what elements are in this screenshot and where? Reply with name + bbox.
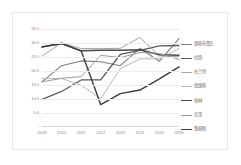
legend-color-swatch [181,115,192,116]
legend-item[interactable]: 杜兰特 [181,69,229,75]
x-axis-tick-label: 2014 [132,131,148,135]
chart-legend: 维斯布鲁克哈登杜兰特德维斯格林库里詹姆斯 [181,41,229,139]
legend-label: 德维斯 [194,84,206,88]
legend-label: 维斯布鲁克 [194,42,213,46]
y-axis-tick-label: 10.0 [17,97,39,101]
x-axis-tick-label: 2009 [34,131,50,135]
legend-label: 杜兰特 [194,70,206,74]
y-axis-tick-label: 30.0 [17,41,39,45]
series-line [42,39,179,82]
x-axis-line [42,126,179,127]
x-axis-labels: 20092010201120122013201420152016 [42,131,179,141]
legend-item[interactable]: 维斯布鲁克 [181,41,229,47]
legend-color-swatch [181,129,192,130]
grid-line [42,99,179,100]
grid-line [42,43,179,44]
legend-item[interactable]: 库里 [181,112,229,118]
legend-item[interactable]: 哈登 [181,55,229,61]
grid-line [42,113,179,114]
y-axis-tick-label: 15.0 [17,83,39,87]
legend-label: 詹姆斯 [194,127,206,131]
legend-label: 哈登 [194,56,202,60]
x-axis-tick-label: 2011 [73,131,89,135]
x-axis-tick-label: 2013 [112,131,128,135]
y-axis-tick-label: 35.0 [17,27,39,31]
plot-area [42,29,179,127]
y-axis-tick-label: - [17,125,39,129]
y-axis-tick-label: 20.0 [17,69,39,73]
legend-item[interactable]: 德维斯 [181,84,229,90]
y-axis-tick-label: 25.0 [17,55,39,59]
chart-container: 35.030.025.020.015.010.05.0- 20092010201… [12,12,228,150]
x-axis-tick-label: 2012 [93,131,109,135]
y-axis-tick-label: 5.0 [17,111,39,115]
plot-wrapper: 35.030.025.020.015.010.05.0- 20092010201… [13,13,229,151]
x-axis-tick-label: 2015 [151,131,167,135]
legend-item[interactable]: 詹姆斯 [181,126,229,132]
legend-label: 格林 [194,99,202,103]
legend-color-swatch [181,58,192,59]
legend-color-swatch [181,86,192,87]
x-axis-tick-label: 2010 [54,131,70,135]
series-line [42,44,179,105]
grid-line [42,29,179,30]
legend-item[interactable]: 格林 [181,98,229,104]
legend-color-swatch [181,100,192,101]
legend-color-swatch [181,72,192,73]
grid-line [42,57,179,58]
legend-color-swatch [181,44,192,45]
grid-line [42,71,179,72]
legend-label: 库里 [194,113,202,117]
grid-line [42,85,179,86]
